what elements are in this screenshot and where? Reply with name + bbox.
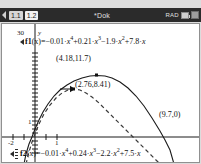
function-entry-f2[interactable]: f2(x)=−0.01·x4+0.24·x3−2.2·x2+7.5·x: [10, 149, 141, 160]
document-title: *Dok: [38, 12, 165, 19]
tab-1-2[interactable]: 1.2: [25, 11, 39, 20]
point-label-maximum[interactable]: (4.18,11.7): [56, 54, 91, 63]
function-f1-equals: =: [41, 37, 46, 46]
function-f2-arg: (x): [27, 149, 36, 158]
y-axis-name-label: y: [38, 29, 41, 37]
entry-caret-icon: [20, 39, 24, 45]
x-tick-label-neg2: -2: [8, 139, 14, 147]
function-f2-equals: =: [36, 149, 41, 158]
status-square-icon: [191, 11, 199, 19]
tab-1-1[interactable]: 1.1: [9, 11, 23, 20]
function-f2-expression[interactable]: f2(x)=−0.01·x4+0.24·x3−2.2·x2+7.5·x: [20, 149, 141, 159]
point-arrow-icon: [60, 86, 75, 92]
function-entry-f1[interactable]: f1(x)=−0.01·x4+0.21·x3−1.9·x2+7.8·x: [20, 37, 146, 47]
angle-mode-indicator[interactable]: RAD: [165, 12, 179, 18]
left-triangle-icon[interactable]: [2, 11, 6, 19]
function-f1-expression[interactable]: f1(x)=−0.01·x4+0.21·x3−1.9·x2+7.8·x: [25, 37, 146, 47]
function-f1-arg: (x): [32, 37, 41, 46]
point-label-intersection[interactable]: (2.76,8.41): [75, 80, 110, 89]
point-label-zero[interactable]: (9.7,0): [159, 110, 180, 119]
graph-canvas[interactable]: 30 y -2 1 1 (4.18,11.7) (2.76,8.41) (9.7…: [1, 23, 200, 163]
title-bar-right: RAD: [165, 11, 199, 19]
title-bar: 1.1 1.2 *Dok RAD: [0, 8, 201, 22]
point-marker-1[interactable]: [95, 74, 98, 77]
dashed-style-icon: [15, 149, 18, 160]
y-tick-label-1: 1: [28, 118, 32, 126]
function-f2-name: f2: [20, 149, 27, 158]
function-f1-name: f1: [25, 37, 32, 46]
calculator-screen: 1.1 1.2 *Dok RAD: [0, 0, 201, 164]
x-tick-label-1: 1: [55, 139, 59, 147]
y-axis-max-label: 30: [17, 29, 24, 37]
title-bar-left: 1.1 1.2: [2, 11, 38, 20]
entry-caret-icon-2: [10, 151, 14, 157]
battery-icon: [181, 12, 189, 19]
